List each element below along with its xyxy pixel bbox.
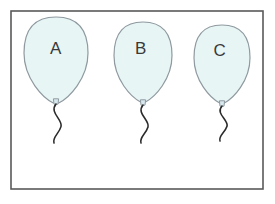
balloon-b-label: B: [135, 39, 147, 58]
balloon-c-label: C: [214, 41, 227, 60]
balloon-a-label: A: [50, 39, 62, 58]
balloon-diagram-canvas: A B C: [0, 0, 275, 204]
diagram-svg: A B C: [0, 0, 275, 204]
